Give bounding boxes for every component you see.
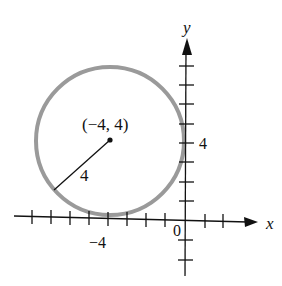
x-axis bbox=[14, 210, 258, 228]
center-label: (−4, 4) bbox=[82, 115, 128, 134]
origin-label: 0 bbox=[173, 222, 181, 239]
radius-label: 4 bbox=[80, 166, 89, 185]
x-tick-label: −4 bbox=[89, 234, 106, 251]
coordinate-plane: y x 0 −4 4 (−4, 4) 4 bbox=[0, 0, 282, 286]
x-axis-arrow-icon bbox=[244, 217, 258, 227]
y-tick-label: 4 bbox=[199, 135, 207, 152]
y-axis-label: y bbox=[181, 18, 191, 37]
center-point bbox=[107, 137, 112, 142]
x-axis-label: x bbox=[265, 214, 274, 233]
y-axis-arrow-icon bbox=[182, 38, 192, 55]
